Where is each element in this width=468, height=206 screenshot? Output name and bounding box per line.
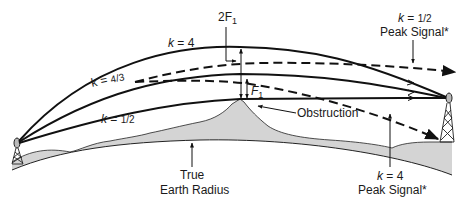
peak-top-signal-label: Peak Signal*	[380, 25, 449, 39]
fresnel-dimension-markers	[226, 27, 247, 98]
obstruction-pointer-arrow	[258, 106, 296, 113]
true-earth-label-line2: Earth Radius	[160, 183, 229, 197]
right-antenna-tower-icon	[440, 93, 454, 142]
two-f1-leader-line	[226, 27, 236, 61]
k-4-label: k = 4	[168, 36, 195, 50]
peak-bottom-k-label: k = 4	[377, 169, 404, 183]
k-factor-path-diagram: 2F1 F1 k = 4 k = 4/3 k = 1/2 k = 1/2 Pea…	[0, 0, 468, 206]
obstruction-label: Obstruction	[297, 106, 358, 120]
k-1-2-label: k = 1/2	[101, 112, 135, 126]
peak-bottom-signal-label: Peak Signal*	[358, 183, 427, 197]
two-f1-label: 2F1	[218, 10, 237, 26]
true-earth-label-line1: True	[180, 168, 205, 182]
k-4-3-label: k = 4/3	[90, 69, 126, 90]
peak-top-k-label: k = 1/2	[398, 11, 432, 25]
